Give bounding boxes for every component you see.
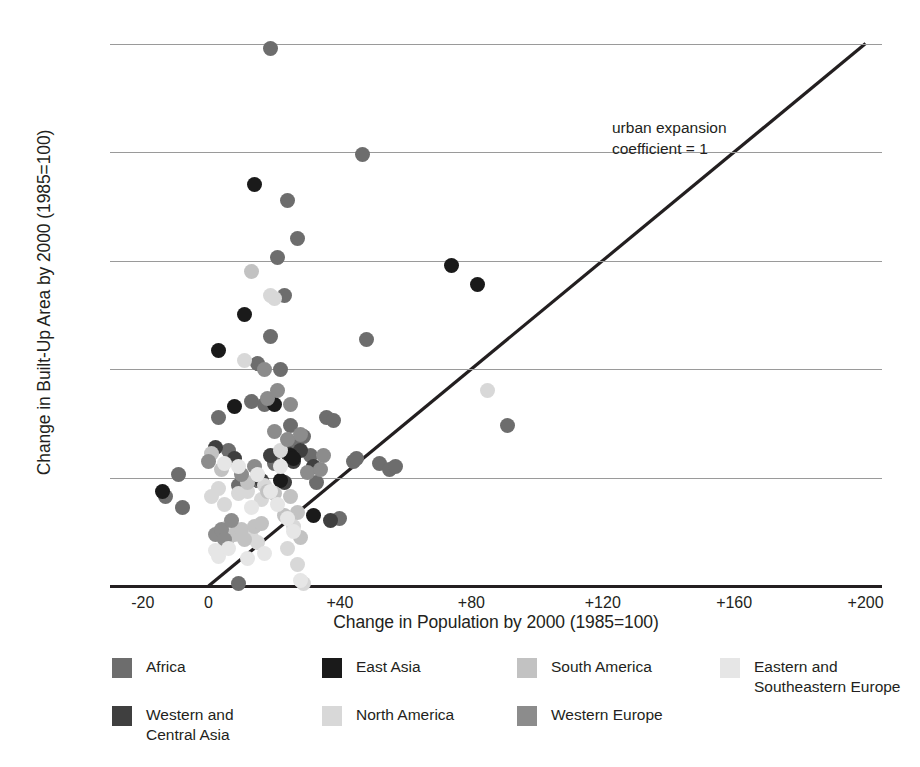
data-point <box>217 497 232 512</box>
data-point <box>355 147 370 162</box>
data-point <box>273 459 288 474</box>
data-point <box>349 451 364 466</box>
data-point <box>247 177 262 192</box>
data-point <box>444 258 459 273</box>
gridline-y-+200 <box>110 44 882 45</box>
gridline-y-+80 <box>110 369 882 370</box>
data-point <box>227 399 242 414</box>
legend-item-south-america[interactable]: South America <box>517 657 652 678</box>
legend-swatch-icon <box>322 706 342 726</box>
data-point <box>359 332 374 347</box>
legend-item-western-europe[interactable]: Western Europe <box>517 705 663 726</box>
data-point <box>240 551 255 566</box>
legend-item-western-and-central-asia[interactable]: Western and Central Asia <box>112 705 234 745</box>
data-point <box>306 508 321 523</box>
legend-swatch-icon <box>517 706 537 726</box>
data-point <box>293 573 308 588</box>
legend-label: Western and Central Asia <box>146 705 234 745</box>
data-point <box>283 489 298 504</box>
data-point <box>263 41 278 56</box>
legend-label: Western Europe <box>551 705 663 725</box>
data-point <box>211 481 226 496</box>
data-point <box>273 362 288 377</box>
data-point <box>155 484 170 499</box>
data-point <box>326 413 341 428</box>
data-point <box>267 291 282 306</box>
x-axis-line <box>110 585 882 588</box>
x-tick-label-+200: +200 <box>821 594 911 612</box>
data-point <box>280 193 295 208</box>
gridline-y-+40 <box>110 478 882 479</box>
gridline-y-+160 <box>110 152 882 153</box>
data-point <box>388 459 403 474</box>
data-point <box>175 500 190 515</box>
data-point <box>221 541 236 556</box>
data-point <box>244 500 259 515</box>
data-point <box>280 541 295 556</box>
legend-item-eastern-and-southeastern-europe[interactable]: Eastern and Southeastern Europe <box>720 657 901 697</box>
data-point <box>323 513 338 528</box>
x-tick-label-+40: +40 <box>295 594 385 612</box>
x-axis-title: Change in Population by 2000 (1985=100) <box>110 612 882 633</box>
legend-swatch-icon <box>517 658 537 678</box>
data-point <box>270 383 285 398</box>
data-point <box>293 427 308 442</box>
legend-swatch-icon <box>322 658 342 678</box>
x-tick-label-+80: +80 <box>426 594 516 612</box>
scatter-chart-figure: Change in Built-Up Area by 2000 (1985=10… <box>0 0 920 767</box>
legend-item-north-america[interactable]: North America <box>322 705 454 726</box>
legend: AfricaEast AsiaSouth AmericaEastern and … <box>112 657 912 757</box>
data-point <box>257 362 272 377</box>
data-point <box>237 307 252 322</box>
data-point <box>211 410 226 425</box>
plot-area: 0+40+80+120+160+200-200+40+80+120+160+20… <box>110 30 882 586</box>
data-point <box>270 250 285 265</box>
gridline-y-+120 <box>110 261 882 262</box>
data-point <box>231 459 246 474</box>
data-point <box>231 576 246 591</box>
legend-label: North America <box>356 705 454 725</box>
legend-swatch-icon <box>720 658 740 678</box>
legend-label: Africa <box>146 657 186 677</box>
legend-label: South America <box>551 657 652 677</box>
x-tick-label-0: 0 <box>164 594 254 612</box>
data-point <box>244 264 259 279</box>
data-point <box>313 462 328 477</box>
data-point <box>201 454 216 469</box>
data-point <box>211 343 226 358</box>
legend-label: Eastern and Southeastern Europe <box>754 657 901 697</box>
legend-label: East Asia <box>356 657 421 677</box>
data-point <box>500 418 515 433</box>
data-point <box>283 397 298 412</box>
data-point <box>290 231 305 246</box>
legend-item-east-asia[interactable]: East Asia <box>322 657 421 678</box>
y-axis-title: Change in Built-Up Area by 2000 (1985=10… <box>34 93 55 513</box>
data-point <box>480 383 495 398</box>
data-point <box>263 329 278 344</box>
data-point <box>257 546 272 561</box>
legend-item-africa[interactable]: Africa <box>112 657 186 678</box>
x-tick-label-+120: +120 <box>558 594 648 612</box>
legend-swatch-icon <box>112 658 132 678</box>
data-point <box>171 467 186 482</box>
data-point <box>316 448 331 463</box>
data-point <box>470 277 485 292</box>
data-point <box>290 557 305 572</box>
data-point <box>254 516 269 531</box>
x-tick-label-+160: +160 <box>689 594 779 612</box>
legend-swatch-icon <box>112 706 132 726</box>
annotation-urban-expansion: urban expansion coefficient = 1 <box>612 118 727 160</box>
